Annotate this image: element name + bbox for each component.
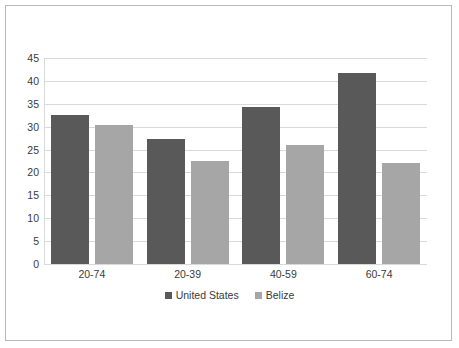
bar-united-states-60-74[interactable]	[338, 73, 376, 264]
bar-united-states-20-74[interactable]	[51, 115, 89, 264]
bar-group	[140, 58, 236, 264]
x-axis-label-20-39: 20-39	[140, 268, 236, 280]
bar-belize-20-74[interactable]	[95, 125, 133, 264]
legend-item-belize[interactable]: Belize	[255, 289, 295, 301]
y-axis-tick-label: 25	[9, 144, 39, 155]
bar-pair	[44, 58, 140, 264]
legend-label: Belize	[266, 289, 295, 301]
bar-group	[236, 58, 332, 264]
bar-belize-40-59[interactable]	[286, 145, 324, 264]
x-axis-label-60-74: 60-74	[331, 268, 427, 280]
chart-legend: United StatesBelize	[6, 289, 453, 301]
bar-belize-20-39[interactable]	[191, 161, 229, 264]
x-axis-label-40-59: 40-59	[236, 268, 332, 280]
chart-plot-wrapper: 454035302520151050 20-7420-3940-5960-74 …	[6, 6, 453, 342]
bar-united-states-40-59[interactable]	[242, 107, 280, 264]
bar-belize-60-74[interactable]	[382, 163, 420, 264]
legend-swatch-icon	[255, 292, 262, 299]
x-axis-category-labels: 20-7420-3940-5960-74	[44, 268, 427, 280]
y-axis-tick-label: 45	[9, 53, 39, 64]
bar-groups	[44, 58, 427, 264]
gridline	[44, 264, 427, 265]
legend-label: United States	[176, 289, 239, 301]
y-axis-tick-label: 5	[9, 236, 39, 247]
x-axis-label-20-74: 20-74	[44, 268, 140, 280]
chart-frame: 454035302520151050 20-7420-3940-5960-74 …	[5, 5, 452, 341]
legend-item-united-states[interactable]: United States	[165, 289, 239, 301]
y-axis-tick-label: 10	[9, 213, 39, 224]
bar-pair	[236, 58, 332, 264]
y-axis-tick-labels: 454035302520151050	[6, 58, 39, 264]
bar-united-states-20-39[interactable]	[147, 139, 185, 264]
y-axis-tick-label: 30	[9, 121, 39, 132]
y-axis-tick-label: 15	[9, 190, 39, 201]
y-axis-tick-label: 35	[9, 99, 39, 110]
bar-group	[331, 58, 427, 264]
legend-swatch-icon	[165, 292, 172, 299]
bar-pair	[140, 58, 236, 264]
y-axis-tick-label: 0	[9, 259, 39, 270]
y-axis-tick-label: 20	[9, 167, 39, 178]
bar-pair	[331, 58, 427, 264]
bar-group	[44, 58, 140, 264]
y-axis-tick-label: 40	[9, 76, 39, 87]
